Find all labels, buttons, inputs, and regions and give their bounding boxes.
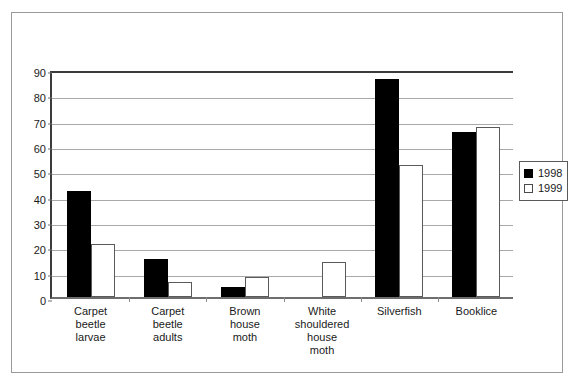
x-axis-category-label: Booklice (434, 305, 518, 318)
bar-1999-4 (322, 262, 346, 297)
x-axis-tick-mark (361, 297, 362, 302)
open-square-icon (524, 184, 533, 193)
gridline (52, 124, 513, 125)
legend-item-label: 1998 (538, 168, 562, 179)
y-axis-tick-label: 0 (40, 296, 46, 307)
y-axis-tick-label: 10 (34, 270, 46, 281)
bar-1998-5 (375, 79, 399, 297)
y-axis-tick-mark (48, 149, 52, 150)
x-axis-category-label: Carpetbeetlelarvae (49, 305, 133, 344)
y-axis-tick-mark (48, 225, 52, 226)
x-axis-category-label: Brownhousemoth (203, 305, 287, 344)
chart-legend: 19981999 (519, 161, 568, 201)
y-axis-tick-label: 90 (34, 68, 46, 79)
x-axis-tick-mark (438, 297, 439, 302)
y-axis-tick-mark (48, 174, 52, 175)
x-axis-category-label: Carpetbeetleadults (126, 305, 210, 344)
gridline (52, 149, 513, 150)
y-axis-tick-mark (48, 250, 52, 251)
y-axis-tick-mark (48, 73, 52, 74)
bar-1999-2 (168, 282, 192, 297)
y-axis-tick-label: 40 (34, 194, 46, 205)
gridline (52, 174, 513, 175)
bar-1998-1 (67, 191, 91, 297)
chart-frame: 0102030405060708090CarpetbeetlelarvaeCar… (11, 12, 563, 373)
x-axis-tick-mark (206, 297, 207, 302)
gridline (52, 200, 513, 201)
gridline (52, 98, 513, 99)
y-axis-tick-label: 30 (34, 220, 46, 231)
x-axis-tick-mark (284, 297, 285, 302)
bar-1999-3 (245, 277, 269, 297)
y-axis-tick-mark (48, 123, 52, 124)
x-axis-tick-mark (129, 297, 130, 302)
gridline (52, 276, 513, 277)
bar-1998-6 (452, 132, 476, 297)
x-axis-category-label: Whiteshoulderedhousemoth (280, 305, 364, 357)
plot-area: 0102030405060708090CarpetbeetlelarvaeCar… (50, 71, 513, 299)
bar-1999-1 (91, 244, 115, 297)
y-axis-tick-label: 80 (34, 93, 46, 104)
legend-item-label: 1999 (538, 183, 562, 194)
bar-1999-5 (399, 165, 423, 297)
y-axis-tick-mark (48, 275, 52, 276)
y-axis-tick-mark (48, 98, 52, 99)
gridline (52, 225, 513, 226)
legend-item-1999: 1999 (524, 181, 562, 196)
y-axis-tick-mark (48, 301, 52, 302)
bar-1998-2 (144, 259, 168, 297)
filled-square-icon (524, 169, 533, 178)
y-axis-tick-mark (48, 199, 52, 200)
y-axis-tick-label: 20 (34, 245, 46, 256)
bar-1998-3 (221, 287, 245, 297)
y-axis-tick-label: 60 (34, 144, 46, 155)
bar-1999-6 (476, 127, 500, 297)
y-axis-tick-label: 50 (34, 169, 46, 180)
y-axis-tick-label: 70 (34, 118, 46, 129)
gridline (52, 250, 513, 251)
x-axis-category-label: Silverfish (357, 305, 441, 318)
legend-item-1998: 1998 (524, 166, 562, 181)
